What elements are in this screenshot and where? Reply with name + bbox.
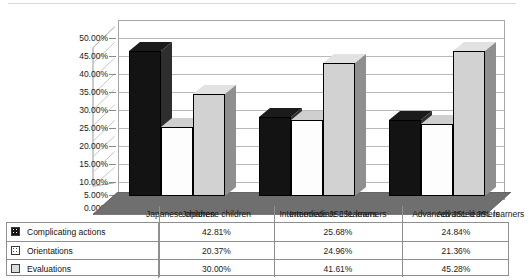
table-row: Orientations 20.37% 24.96% 21.36% [7,241,508,259]
table-cell: 42.81% [159,223,274,241]
bar-evaluations-japanese-children [193,94,225,196]
legend-item-evaluations: Evaluations [7,260,159,278]
table-cell: 24.84% [402,223,510,241]
white-dotted-swatch-icon [11,246,20,255]
table-cell: 41.61% [274,260,402,278]
bar-evaluations-intermediate-jsl-learners [323,63,355,196]
table-header-row: Japanese children Intermediate JSL learn… [7,206,508,223]
table-cell: 24.96% [274,242,402,260]
black-dotted-swatch-icon [11,227,20,236]
legend-item-orientations: Orientations [7,242,159,260]
bar-complicating-actions-intermediate-jsl-learners [259,117,291,196]
chart-plot-area: 50.00% 45.00% 40.00% 35.00% 30.00% 25.00… [0,8,521,213]
chart-data-table: Japanese children Intermediate JSL learn… [6,222,509,276]
bar-orientations-advanced-jsl-learners [421,124,453,196]
bar-complicating-actions-advanced-jsl-learners [389,120,421,196]
bar-evaluations-advanced-jsl-learners [453,51,485,196]
table-row: Evaluations 30.00% 41.61% 45.28% [7,259,508,277]
legend-item-complicating-actions: Complicating actions [7,223,159,241]
table-cell: 45.28% [402,260,510,278]
table-cell: 21.36% [402,242,510,260]
legend-label: Evaluations [27,264,71,274]
table-cell: 20.37% [159,242,274,260]
legend-label: Complicating actions [27,227,105,237]
bar-orientations-intermediate-jsl-learners [291,120,323,196]
table-row: Complicating actions 42.81% 25.68% 24.84… [7,223,508,241]
bar-orientations-japanese-children [161,127,193,196]
solid-gray-swatch-icon [11,264,20,273]
table-column-header: Intermediate JSL learners [274,206,402,223]
table-cell: 30.00% [159,260,274,278]
table-column-header: Japanese children [159,206,274,223]
top-divider-rule [8,3,516,4]
table-cell: 25.68% [274,223,402,241]
bar-complicating-actions-japanese-children [129,51,161,196]
chart-bars-layer [0,8,521,213]
legend-label: Orientations [27,246,73,256]
table-column-header: Advanced JSL learners [402,206,510,223]
